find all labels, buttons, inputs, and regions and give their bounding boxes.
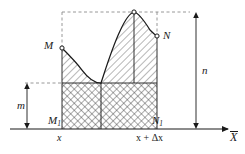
point-marker-N — [155, 34, 159, 38]
diagram-canvas — [0, 0, 245, 154]
point-marker-peak — [132, 10, 136, 14]
label-point-M1-base: M — [48, 114, 57, 126]
label-point-M1: M1 — [48, 115, 61, 127]
dimension-arrow-n — [193, 12, 199, 129]
hatched-area-above-m — [62, 12, 157, 83]
label-tick-x-plus-delta-x: x + Δx — [136, 133, 163, 143]
dimension-arrow-m — [24, 83, 30, 129]
point-marker-M — [60, 46, 64, 50]
label-axis-x: X — [230, 131, 238, 143]
label-point-N1: N1 — [152, 115, 163, 127]
axis-x-letter: X — [230, 130, 237, 144]
figure-container: M N M1 N1 m n x x + Δx X — [0, 0, 245, 154]
label-point-N: N — [163, 30, 170, 41]
crosshatched-rectangle — [62, 83, 157, 129]
label-point-M1-subscript: 1 — [57, 119, 61, 128]
label-height-m: m — [17, 100, 25, 111]
label-point-N1-subscript: 1 — [159, 119, 163, 128]
label-point-M: M — [44, 40, 53, 51]
label-height-n: n — [202, 65, 208, 76]
label-tick-x: x — [57, 133, 61, 143]
